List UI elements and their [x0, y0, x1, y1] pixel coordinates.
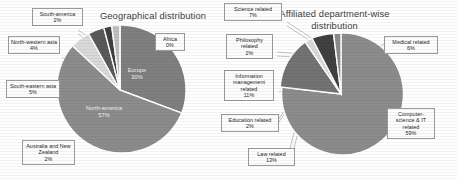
chart-geographical-distribution: Geographical distribution	[0, 0, 228, 179]
callout-computer-science-it-related: Computer- science & IT related 59%	[387, 108, 435, 139]
callout-information-management-related-pct: 11%	[226, 92, 272, 99]
callout-philosophy-related: Philosophy related 2%	[226, 34, 273, 59]
callout-law-related-text: Law related	[257, 151, 285, 157]
callout-south-america: South-america 2%	[32, 8, 83, 26]
callout-philosophy-related-line1: Philosophy	[236, 37, 263, 43]
callout-south-eastern-asia-text: South-eastern asia	[10, 83, 56, 89]
callout-law-related-pct: 13%	[250, 157, 293, 164]
pie-label-europe-pct: 30%	[117, 74, 157, 81]
callout-science-related: Science related 7%	[224, 3, 282, 21]
callout-information-management-related-line1: Information	[235, 73, 263, 79]
callout-law-related: Law related 13%	[248, 148, 295, 166]
callout-information-management-related-line2: management	[233, 79, 265, 85]
callout-north-western-asia: North-western asia 4%	[8, 36, 60, 54]
callout-science-related-pct: 7%	[226, 12, 280, 19]
callout-south-eastern-asia-pct: 5%	[8, 89, 58, 96]
pie-label-europe-text: Europe	[128, 67, 146, 73]
callout-science-related-text: Science related	[234, 6, 272, 12]
callout-australia-new-zealand: Australia and New Zealand 2%	[22, 140, 75, 165]
callout-medical-related: Medical related 6%	[384, 36, 438, 54]
callout-computer-science-it-related-line3: related	[403, 124, 420, 130]
callout-africa-text: Africa	[163, 36, 177, 42]
callout-south-eastern-asia: South-eastern asia 5%	[6, 80, 60, 98]
callout-computer-science-it-related-line1: Computer-	[398, 111, 424, 117]
callout-africa: Africa 0%	[155, 33, 185, 51]
callout-philosophy-related-pct: 2%	[228, 50, 271, 57]
callout-africa-pct: 0%	[157, 42, 183, 49]
callout-information-management-related-line3: related	[241, 86, 258, 92]
pie-label-north-america: North-america 57%	[75, 105, 133, 119]
pie-label-europe: Europe 30%	[117, 67, 157, 81]
callout-north-western-asia-text: North-western asia	[11, 39, 57, 45]
callout-australia-new-zealand-pct: 2%	[24, 156, 73, 163]
callout-education-related-text: Education related	[229, 117, 272, 123]
callout-north-western-asia-pct: 4%	[10, 45, 58, 52]
pie-label-north-america-pct: 57%	[75, 112, 133, 119]
callout-computer-science-it-related-pct: 59%	[389, 130, 433, 137]
callout-medical-related-pct: 6%	[386, 45, 436, 52]
figure-root: Geographical distribution	[0, 0, 457, 179]
callout-australia-new-zealand-text: Australia and New Zealand	[26, 143, 71, 156]
callout-computer-science-it-related-line2: science & IT	[396, 117, 426, 123]
callout-philosophy-related-line2: related	[241, 43, 258, 49]
callout-medical-related-text: Medical related	[392, 39, 429, 45]
callout-education-related-pct: 2%	[223, 123, 277, 130]
callout-information-management-related: Information management related 11%	[224, 70, 274, 101]
pie-label-north-america-text: North-america	[86, 105, 122, 111]
callout-south-america-text: South-america	[40, 11, 76, 17]
chart-affiliated-department-wise-distribution: Affiliated department-wise distribution	[229, 0, 457, 179]
callout-south-america-pct: 2%	[34, 17, 81, 24]
callout-education-related: Education related 2%	[221, 114, 279, 132]
